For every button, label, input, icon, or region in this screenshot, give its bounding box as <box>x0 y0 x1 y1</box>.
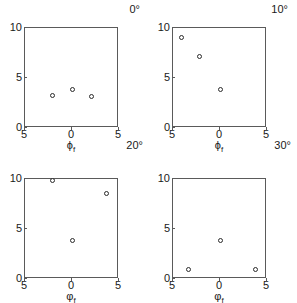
next-panel-angle-label: 20° <box>126 139 143 151</box>
plot-area <box>24 27 118 127</box>
scatter-panel-figure: 0°0510505ϕf20°10°0510505ϕf30°0510505φf05… <box>0 0 297 303</box>
y-tick-mark <box>24 77 27 78</box>
chart-panel-2: 0510505φf <box>0 151 148 302</box>
data-point <box>218 238 223 243</box>
panel-angle-label: 0° <box>129 3 140 15</box>
chart-panel-1: 10°0510505ϕf30° <box>148 0 296 151</box>
y-tick-label: 10 <box>148 173 170 184</box>
y-tick-mark <box>24 178 27 179</box>
data-point <box>50 93 55 98</box>
y-tick-label: 10 <box>0 173 22 184</box>
plot-area <box>24 178 118 278</box>
data-point <box>70 238 75 243</box>
y-tick-label: 10 <box>148 22 170 33</box>
plot-area <box>172 27 266 127</box>
x-axis-title: φf <box>172 290 266 303</box>
y-tick-label: 5 <box>0 72 22 83</box>
data-point <box>179 35 184 40</box>
y-tick-mark <box>172 77 175 78</box>
y-tick-mark <box>172 27 175 28</box>
x-axis-subscript: f <box>73 296 75 303</box>
y-tick-mark <box>172 228 175 229</box>
plot-area <box>172 178 266 278</box>
y-tick-label: 5 <box>148 223 170 234</box>
data-point <box>89 94 94 99</box>
data-point <box>186 267 191 272</box>
chart-panel-3: 0510505φf <box>148 151 296 302</box>
data-point <box>50 178 55 183</box>
chart-panel-0: 0°0510505ϕf20° <box>0 0 148 151</box>
x-axis-subscript: f <box>221 296 223 303</box>
data-point <box>70 87 75 92</box>
data-point <box>218 87 223 92</box>
y-tick-label: 5 <box>148 72 170 83</box>
x-axis-title: φf <box>24 290 118 303</box>
y-tick-mark <box>24 228 27 229</box>
y-tick-label: 5 <box>0 223 22 234</box>
panel-angle-label: 10° <box>271 3 288 15</box>
next-panel-angle-label: 30° <box>274 139 291 151</box>
data-point <box>253 267 258 272</box>
y-tick-mark <box>172 178 175 179</box>
data-point <box>104 191 109 196</box>
y-tick-label: 10 <box>0 22 22 33</box>
y-tick-mark <box>24 27 27 28</box>
data-point <box>197 54 202 59</box>
